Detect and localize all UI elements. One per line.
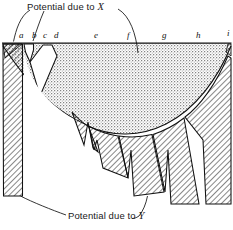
label-potential-x-text: Potential due to — [27, 1, 97, 12]
marker-letter-e: e — [94, 30, 98, 40]
label-potential-x-var: X — [97, 1, 104, 12]
marker-letter-i: i — [227, 28, 230, 38]
label-potential-x: Potential due to X — [27, 1, 104, 12]
label-potential-y-text: Potential due to — [68, 210, 138, 221]
marker-letter-h: h — [196, 30, 201, 40]
marker-letter-a: a — [19, 30, 24, 40]
marker-letter-g: g — [162, 30, 167, 40]
marker-letter-d: d — [54, 30, 59, 40]
label-potential-y: Potential due to Y — [68, 210, 144, 221]
leader-y-left — [21, 196, 67, 215]
marker-letter-b: b — [32, 30, 37, 40]
wedge-a — [3, 44, 23, 196]
label-potential-y-var: Y — [138, 210, 144, 221]
marker-letter-f: f — [127, 30, 130, 40]
marker-letter-c: c — [43, 30, 47, 40]
